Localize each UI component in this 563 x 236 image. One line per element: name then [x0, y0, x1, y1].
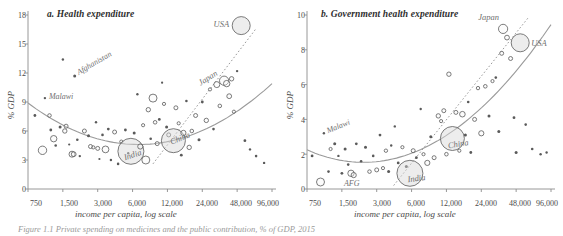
panel-b-label-india: India: [406, 172, 426, 185]
panel-b-label-japan: Japan: [478, 12, 499, 22]
panel-b-label-usa: USA: [531, 38, 547, 48]
panel-a-health-expenditure: a. Health expenditure % GDP 18 15 12 9 6…: [0, 0, 279, 236]
panel-a-label-afghanistan: Afghanistan: [74, 50, 113, 78]
panel-b-label-malawi: Malawi: [324, 118, 351, 136]
panel-a-label-malawi: Malawi: [48, 92, 73, 101]
panel-b-government-health-expenditure: b. Government health expenditure % GDP 1…: [279, 0, 558, 236]
panel-b-label-afg: AFG: [343, 179, 360, 188]
panel-a-label-usa: USA: [214, 19, 230, 29]
figure-caption: Figure 1.1 Private spending on medicines…: [18, 224, 548, 236]
panel-b-plot-area: JapanUSAChinaIndiaAFGMalawi: [279, 0, 558, 236]
panel-a-plot-area: USAJapanChinaIndiaAfghanistanMalawi: [0, 0, 279, 236]
